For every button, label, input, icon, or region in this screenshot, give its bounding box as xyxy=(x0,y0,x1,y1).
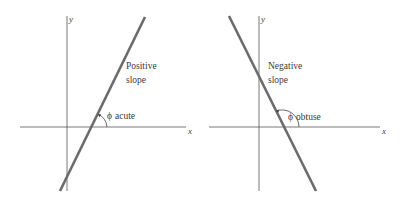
x-axis-label: x xyxy=(187,126,192,136)
angle-phi-symbol: ϕ xyxy=(288,112,293,122)
slope-diagram: y x Positive slope ϕ acute y x Negative … xyxy=(0,0,407,203)
y-axis-label: y xyxy=(68,14,73,24)
angle-acute-label: acute xyxy=(115,111,135,121)
negative-slope-label-line1: Negative xyxy=(268,61,302,71)
angle-obtuse-label: obtuse xyxy=(296,112,321,122)
negative-slope-panel: y x Negative slope ϕ obtuse xyxy=(209,14,386,191)
positive-slope-line xyxy=(60,17,145,191)
x-axis-label: x xyxy=(381,126,386,136)
negative-slope-line xyxy=(229,16,316,191)
angle-phi-symbol: ϕ xyxy=(107,111,112,121)
y-axis-label: y xyxy=(260,14,265,24)
negative-slope-label-line2: slope xyxy=(268,75,288,85)
positive-slope-label-line1: Positive xyxy=(126,61,157,71)
positive-slope-label-line2: slope xyxy=(126,75,146,85)
positive-slope-panel: y x Positive slope ϕ acute xyxy=(20,14,192,191)
